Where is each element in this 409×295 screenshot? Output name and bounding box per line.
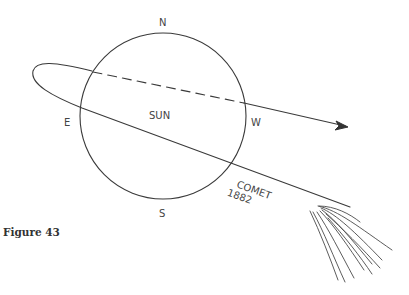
- arrow-head-icon: [335, 121, 348, 130]
- west-label: W: [251, 117, 261, 128]
- comet-orbit-front: [33, 63, 350, 207]
- comet-tail: [310, 206, 392, 282]
- south-label: S: [159, 208, 165, 219]
- figure-caption: Figure 43: [3, 226, 60, 238]
- sun-label: SUN: [149, 110, 170, 121]
- east-label: E: [64, 117, 70, 128]
- comet-orbit-diagram: N S E W SUN COMET 1882 Figure 43: [0, 0, 409, 295]
- comet-orbit-behind-sun: [93, 72, 244, 103]
- north-label: N: [159, 17, 166, 28]
